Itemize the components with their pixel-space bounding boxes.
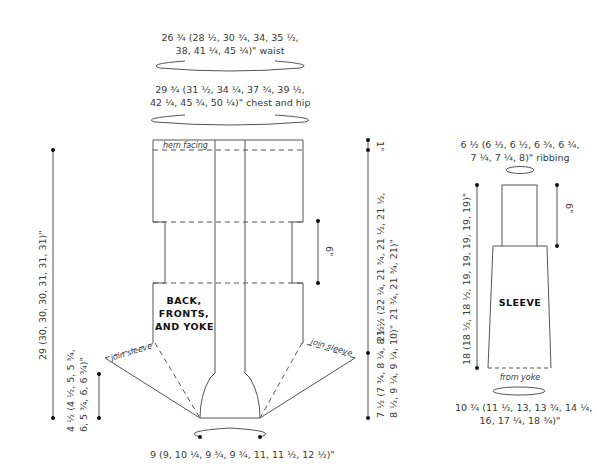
body-length-line-2: 21 ¾, 21 ¾, 21)" <box>387 193 400 342</box>
armhole-measurement: 7 ½ (7 ¾, 8 ¼, 8 ½, 8 ½, 9 ¼, 9 ¼, 10)" <box>374 323 400 418</box>
ribbing-line-1: 6 ½ (6 ½, 6 ½, 6 ¾, 6 ¾, <box>455 138 585 151</box>
upper-arm-line-1: 10 ¾ (11 ½, 13, 13 ¾, 14 ¼, <box>455 401 585 414</box>
waist-measurement: 26 ¾ (28 ½, 30 ¾, 34, 35 ½, 38, 41 ¼, 45… <box>160 31 300 57</box>
chest-line-1: 29 ¾ (31 ½, 34 ¼, 37 ¾, 39 ½, <box>150 83 310 96</box>
sleeve-title: SLEEVE <box>490 296 550 309</box>
upper-arm-arrow <box>493 387 545 395</box>
yoke-depth-measurement: 4 ½ (4 ½, 5, 5 ¾, 6, 5 ¾, 6, 6 ¾)" <box>64 349 90 432</box>
waist-length-measurement: 6" <box>323 246 336 256</box>
title-line-2: FRONTS, <box>155 307 213 320</box>
waist-circumference-arrow <box>156 61 304 71</box>
hem-measurement: 1" <box>374 141 387 151</box>
yoke-depth-line <box>97 372 101 420</box>
armhole-line-1: 7 ½ (7 ¾, 8 ¼, 8 ½, <box>374 323 387 418</box>
ribbing-measurement: 6 ½ (6 ½, 6 ½, 6 ¾, 6 ¾, 7 ¼, 7 ¼, 8)" r… <box>455 138 585 164</box>
body-length-line-1: 21 ½ (22 ¼, 21 ¾, 21 ½, 21 ½, <box>374 193 387 342</box>
chest-measurement: 29 ¾ (31 ½, 34 ¼, 37 ¾, 39 ½, 42 ¼, 45 ¾… <box>150 83 310 109</box>
upper-arm-measurement: 10 ¾ (11 ½, 13, 13 ¾, 14 ¼, 16, 17 ¼, 18… <box>455 401 585 427</box>
from-yoke-label: from yoke <box>490 371 550 384</box>
title-line-1: BACK, <box>155 294 213 307</box>
ribbing-line-2: 7 ¼, 7 ¼, 8)" ribbing <box>455 151 585 164</box>
chest-line-2: 42 ¼, 45 ¾, 50 ¼)" chest and hip <box>150 96 310 109</box>
ribbing-arrow <box>506 167 534 174</box>
neck-measurement: 9 (9, 10 ¼, 9 ¾, 9 ¾, 11, 11 ½, 12 ½)" <box>150 448 310 461</box>
sleeve-length-line <box>475 183 479 370</box>
hem-facing-label: hem facing <box>163 139 208 152</box>
yoke-depth-line-2: 6, 5 ¾, 6, 6 ¾)" <box>77 349 90 432</box>
body-length-measurement: 21 ½ (22 ¼, 21 ¾, 21 ½, 21 ½, 21 ¾, 21 ¾… <box>374 193 400 342</box>
neck-width-arrow <box>194 428 265 437</box>
sleeve-outline <box>488 185 551 368</box>
body-length-line <box>366 138 370 420</box>
sleeve-length-measurement: 18 (18 ½, 18 ½, 19, 19, 19, 19, 19)" <box>460 193 473 365</box>
yoke-depth-line-1: 4 ½ (4 ½, 5, 5 ¾, <box>64 349 77 432</box>
body-piece-title: BACK, FRONTS, AND YOKE <box>155 294 213 333</box>
waist-length-line <box>316 219 320 285</box>
total-length-line <box>51 148 55 420</box>
title-line-3: AND YOKE <box>155 320 213 333</box>
chest-circumference-arrow <box>151 115 309 125</box>
armhole-line-2: 8 ½, 9 ¼, 9 ¼, 10)" <box>387 323 400 418</box>
upper-arm-line-2: 16, 17 ¼, 18 ¾)" <box>455 414 585 427</box>
total-length-measurement: 29 (30, 30, 30, 31, 31, 31)" <box>36 230 49 360</box>
cuff-length-line <box>555 183 559 248</box>
waist-line-2: 38, 41 ¼, 45 ¼)" waist <box>160 44 300 57</box>
waist-line-1: 26 ¾ (28 ½, 30 ¾, 34, 35 ½, <box>160 31 300 44</box>
cuff-length-measurement: 6" <box>563 203 576 213</box>
